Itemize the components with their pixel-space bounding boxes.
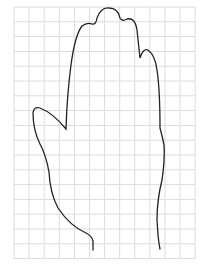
hand-grid-diagram — [0, 0, 203, 273]
grid-lines — [14, 7, 195, 259]
hand-outline-main — [33, 8, 164, 250]
